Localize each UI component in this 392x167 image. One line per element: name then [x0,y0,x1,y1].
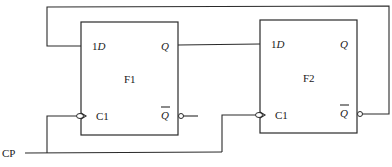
f1-qbar-output-label: Q [161,109,169,121]
f2-q-output-label: Q [340,38,348,50]
f1-name-label: F1 [124,73,136,85]
flip-flop-f2: 1D Q F2 C1 Q [256,20,363,133]
wire-cp-to-f2-clock [222,115,256,152]
wires [25,6,389,153]
f1-q-output-label: Q [161,40,169,52]
wire-cp-to-f1-clock [47,116,77,153]
cp-input-label: CP [2,147,15,159]
wire-f1q-to-f2d [178,44,260,45]
f1-clock-label: C1 [96,110,109,122]
f2-qbar-output-label: Q [340,107,348,119]
f2-d-input-label: 1D [271,38,285,50]
f2-qbar-bubble-icon [358,112,363,117]
flip-flop-f1: 1D Q F1 C1 Q [77,22,199,135]
f2-name-label: F2 [303,72,315,84]
f1-qbar-bubble-icon [179,114,184,119]
f1-d-input-label: 1D [92,40,106,52]
f2-clock-label: C1 [275,109,288,121]
circuit-diagram: 1D Q F1 C1 Q 1D Q F2 C1 Q CP [0,0,392,167]
wire-cp-main [25,152,222,153]
